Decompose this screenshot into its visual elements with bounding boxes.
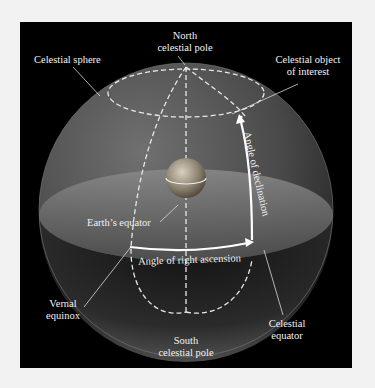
celestial-equator-line1: Celestial	[262, 318, 312, 330]
celestial-object-marker	[239, 115, 242, 118]
north-celestial-pole-label: North celestial pole	[145, 30, 225, 54]
vernal-equinox-label: Vernal equinox	[38, 298, 88, 322]
earths-equator-label: Earth’s equator	[87, 217, 151, 229]
celestial-equator-label: Celestial equator	[262, 318, 312, 342]
earth	[166, 158, 206, 198]
vernal-line1: Vernal	[38, 298, 88, 310]
celestial-equator-line2: equator	[262, 330, 312, 342]
south-pole-line2: celestial pole	[146, 347, 226, 359]
celestial-sphere-label: Celestial sphere	[34, 54, 101, 66]
celestial-object-label: Celestial object of interest	[268, 54, 348, 78]
north-pole-line2: celestial pole	[145, 42, 225, 54]
leader-celestial-sphere	[73, 67, 100, 96]
south-celestial-pole-label: South celestial pole	[146, 335, 226, 359]
south-pole-line1: South	[146, 335, 226, 347]
north-pole-line1: North	[145, 30, 225, 42]
object-line1: Celestial object	[268, 54, 348, 66]
vernal-line2: equinox	[38, 310, 88, 322]
object-line2: of interest	[268, 66, 348, 78]
